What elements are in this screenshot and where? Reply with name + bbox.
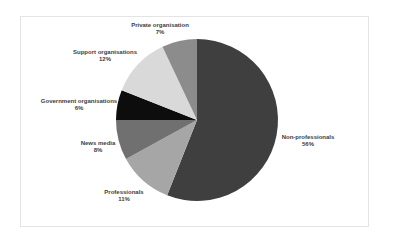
label-pct: 8% (81, 147, 116, 154)
label-name: Non-professionals (282, 134, 335, 141)
label-professionals: Professionals 11% (104, 189, 143, 203)
label-non-professionals: Non-professionals 56% (282, 134, 335, 148)
label-news-media: News media 8% (81, 140, 116, 154)
label-name: Private organisation (131, 22, 189, 29)
label-support-organisations: Support organisations 12% (73, 49, 137, 63)
label-name: Support organisations (73, 49, 137, 56)
label-pct: 12% (73, 56, 137, 63)
label-name: Government organisations (41, 98, 117, 105)
pie-chart (0, 0, 395, 238)
label-pct: 56% (282, 141, 335, 148)
label-pct: 6% (41, 105, 117, 112)
label-name: Professionals (104, 189, 143, 196)
label-name: News media (81, 140, 116, 147)
label-pct: 7% (131, 29, 189, 36)
label-private-organisation: Private organisation 7% (131, 22, 189, 36)
label-pct: 11% (104, 196, 143, 203)
label-government-organisations: Government organisations 6% (41, 98, 117, 112)
